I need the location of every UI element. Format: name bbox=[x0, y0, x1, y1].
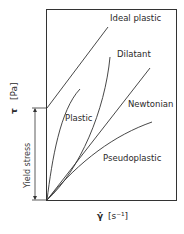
flow-curve-diagram: Yield stress Ideal plastic Dilatant Newt… bbox=[0, 0, 184, 234]
label-newtonian: Newtonian bbox=[128, 99, 173, 109]
label-dilatant: Dilatant bbox=[117, 49, 151, 59]
yield-stress-label: Yield stress bbox=[23, 143, 32, 189]
curve-ideal-plastic bbox=[47, 27, 108, 108]
label-ideal-plastic: Ideal plastic bbox=[110, 13, 161, 23]
curve-dilatant bbox=[47, 57, 110, 200]
label-pseudoplastic: Pseudoplastic bbox=[103, 153, 162, 163]
yield-stress-arrow-head-bottom bbox=[33, 196, 37, 200]
y-axis-label: τ [Pa] bbox=[9, 82, 19, 114]
yield-stress-arrow-head-top bbox=[33, 108, 37, 112]
curve-plastic bbox=[47, 89, 80, 200]
y-axis-symbol: τ bbox=[9, 108, 19, 114]
x-axis-symbol: γ̇ bbox=[97, 211, 103, 221]
x-axis-unit: [s⁻¹] bbox=[108, 211, 128, 221]
label-plastic: Plastic bbox=[65, 113, 93, 123]
y-axis-unit: [Pa] bbox=[9, 82, 19, 100]
